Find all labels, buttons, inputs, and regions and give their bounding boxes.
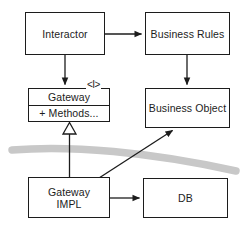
node-gateway-impl[interactable]: Gateway IMPL xyxy=(28,177,110,218)
interface-stereotype-icon: <I> xyxy=(86,80,101,90)
gateway-name-compartment: Gateway xyxy=(29,89,109,105)
business-rules-body: Business Rules xyxy=(146,13,229,54)
gateway-impl-body: Gateway IMPL xyxy=(29,178,109,217)
node-business-rules[interactable]: Business Rules xyxy=(145,12,230,55)
realization-hollow-triangle-icon xyxy=(63,123,76,135)
interactor-body: Interactor xyxy=(26,13,104,54)
db-body: DB xyxy=(144,179,227,217)
architecture-diagram: Interactor Business Rules Gateway + Meth… xyxy=(0,0,242,232)
node-interactor-label: Interactor xyxy=(40,28,89,40)
architecture-boundary-band xyxy=(12,148,236,171)
node-db[interactable]: DB xyxy=(143,178,228,218)
node-db-label: DB xyxy=(176,192,195,204)
node-business-object-label: Business Object xyxy=(147,102,228,114)
node-gateway-label: Gateway xyxy=(46,91,92,103)
node-business-rules-label: Business Rules xyxy=(149,28,227,40)
node-business-object[interactable]: Business Object xyxy=(145,88,230,128)
node-gateway[interactable]: Gateway + Methods... xyxy=(28,88,110,122)
node-interactor[interactable]: Interactor xyxy=(25,12,105,55)
node-gateway-methods-label: + Methods... xyxy=(37,107,100,119)
node-gateway-impl-label: Gateway IMPL xyxy=(46,186,92,210)
business-object-body: Business Object xyxy=(146,89,229,127)
gateway-methods-compartment: + Methods... xyxy=(29,105,109,122)
